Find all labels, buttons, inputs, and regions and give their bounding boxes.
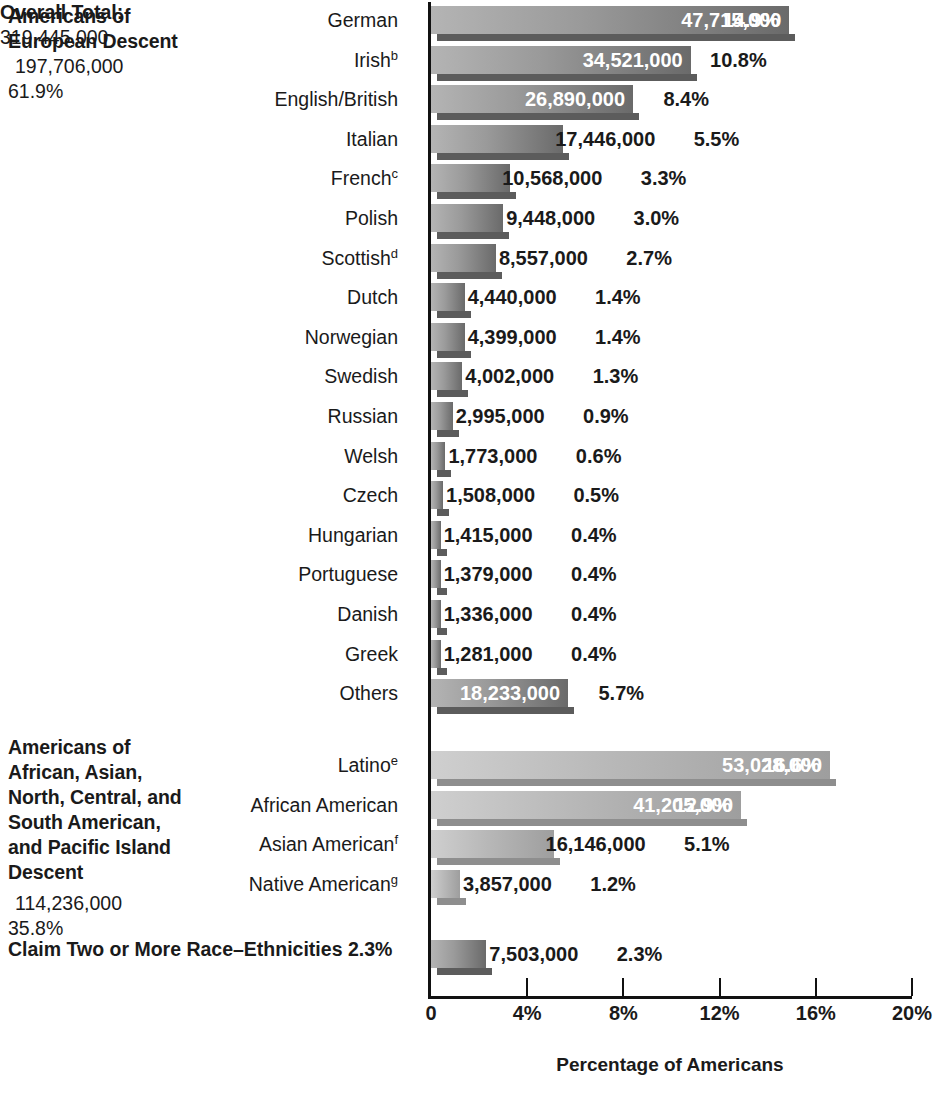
bar-shadow [437, 968, 492, 975]
bar-shadow [437, 628, 447, 635]
bar-row: 7,503,0002.3% [0, 940, 935, 980]
bar-count-label: 1,281,000 [353, 640, 533, 668]
bar-percent-label: 12.9% [661, 791, 731, 819]
bar-count-label: 1,508,000 [355, 481, 535, 509]
bar-percent-label: 5.5% [669, 125, 739, 153]
bar-count-label: 34,521,000 [503, 46, 683, 74]
bar-shadow [437, 779, 836, 786]
footnote-marker: d [391, 245, 398, 260]
bar-row: Frenchc10,568,0003.3% [0, 164, 935, 204]
bar-count-label: 4,440,000 [377, 283, 557, 311]
bar-row: Italian17,446,0005.5% [0, 125, 935, 165]
x-axis-tick [622, 978, 624, 996]
bar-count-label: 8,557,000 [408, 244, 588, 272]
footnote-marker: b [391, 47, 398, 62]
bar-percent-label: 0.4% [547, 521, 617, 549]
x-axis-tick [526, 978, 528, 996]
bar-row: German47,715,00014.9% [0, 6, 935, 46]
bar-percent-label: 0.5% [549, 481, 619, 509]
bar-percent-label: 16.6% [750, 751, 820, 779]
bar-percent-label: 0.6% [551, 442, 621, 470]
bar-shadow [437, 34, 795, 41]
bar-row: African American41,205,00012.9% [0, 791, 935, 831]
bar-count-label: 10,568,000 [422, 164, 602, 192]
bar-percent-label: 0.4% [547, 560, 617, 588]
bar-category-label: Norwegian [150, 323, 398, 351]
bar-row: Scottishd8,557,0002.7% [0, 244, 935, 284]
bar-percent-label: 10.8% [697, 46, 767, 74]
bar-shadow [437, 819, 747, 826]
bar-category-label: Dutch [150, 283, 398, 311]
bar-category-label: Native Americang [150, 870, 398, 898]
bar-row: Norwegian4,399,0001.4% [0, 323, 935, 363]
x-axis-tick-label: 20% [892, 1002, 932, 1025]
bar-category-label: African American [150, 791, 398, 819]
x-axis-tick-label: 0 [425, 1002, 436, 1025]
bar-percent-label: 2.7% [602, 244, 672, 272]
bar-percent-label: 2.3% [592, 940, 662, 968]
x-axis-tick [815, 978, 817, 996]
bar-count-label: 1,773,000 [357, 442, 537, 470]
bar-shadow [437, 668, 447, 675]
bar-shadow [437, 192, 516, 199]
bar-category-label: Latinoe [150, 751, 398, 779]
bar-category-label: Frenchc [150, 164, 398, 192]
bar-shadow [437, 351, 471, 358]
bar-shadow [437, 509, 449, 516]
bar-row: Irishb34,521,00010.8% [0, 46, 935, 86]
bar-shadow [437, 390, 468, 397]
bar-percent-label: 0.4% [547, 640, 617, 668]
footnote-marker: f [394, 832, 398, 847]
bar-count-label: 4,399,000 [377, 323, 557, 351]
bar-shadow [437, 74, 697, 81]
bar-category-label: Swedish [150, 362, 398, 390]
bar-category-label: English/British [150, 85, 398, 113]
bar-row: Russian2,995,0000.9% [0, 402, 935, 442]
bar-category-label: Irishb [150, 46, 398, 74]
bar-count-label: 7,503,000 [398, 940, 578, 968]
bar-count-label: 9,448,000 [415, 204, 595, 232]
bar-shadow [437, 272, 502, 279]
bar-shadow [437, 549, 447, 556]
bar-count-label: 1,379,000 [353, 560, 533, 588]
bar-category-label: German [150, 6, 398, 34]
bar-count-label: 1,415,000 [353, 521, 533, 549]
bar-percent-label: 1.2% [566, 870, 636, 898]
bar-count-label: 17,446,000 [475, 125, 655, 153]
ethnicity-bar-chart: Americans of European Descent 197,706,00… [0, 0, 935, 1095]
bar-category-label: Asian Americanf [150, 830, 398, 858]
bar-percent-label: 3.0% [609, 204, 679, 232]
bar-row: Others18,233,0005.7% [0, 679, 935, 719]
bar-row: Danish1,336,0000.4% [0, 600, 935, 640]
x-axis-tick-label: 8% [609, 1002, 638, 1025]
bar-row: Asian Americanf16,146,0005.1% [0, 830, 935, 870]
bar-percent-label: 8.4% [639, 85, 709, 113]
bar-shadow [437, 153, 569, 160]
x-axis-title: Percentage of Americans [428, 1054, 912, 1076]
bar-shadow [437, 430, 459, 437]
x-axis-line [428, 996, 912, 999]
bar-shadow [437, 311, 471, 318]
x-axis-tick-label: 16% [796, 1002, 836, 1025]
bar-percent-label: 0.9% [559, 402, 629, 430]
bar-percent-label: 1.4% [571, 283, 641, 311]
x-axis-tick [719, 978, 721, 996]
bar-percent-label: 5.7% [574, 679, 644, 707]
bar-category-label: Others [150, 679, 398, 707]
bar-shadow [437, 707, 574, 714]
x-axis-tick-label: 12% [700, 1002, 740, 1025]
bar-count-label: 2,995,000 [365, 402, 545, 430]
bar-percent-label: 1.4% [571, 323, 641, 351]
x-axis-tick-label: 4% [513, 1002, 542, 1025]
bar-row: Portuguese1,379,0000.4% [0, 560, 935, 600]
bar-row: Dutch4,440,0001.4% [0, 283, 935, 323]
bar-row: Swedish4,002,0001.3% [0, 362, 935, 402]
bar-count-label: 4,002,000 [374, 362, 554, 390]
bar-row: Greek1,281,0000.4% [0, 640, 935, 680]
bar-row: Polish9,448,0003.0% [0, 204, 935, 244]
bar-shadow [437, 232, 509, 239]
bar-category-label: Scottishd [150, 244, 398, 272]
bar-count-label: 1,336,000 [353, 600, 533, 628]
bar-category-label: Italian [150, 125, 398, 153]
bar-row: Welsh1,773,0000.6% [0, 442, 935, 482]
